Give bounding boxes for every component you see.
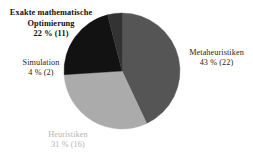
slice-label-heuristiken-value: 31 % (16) — [28, 140, 108, 150]
slice-label-exakte-mathematische-optimierung: Exakte mathematische Optimierung 22 % (1… — [5, 8, 97, 40]
pie-chart-figure: Exakte mathematische Optimierung 22 % (1… — [0, 0, 253, 156]
slice-label-metaheuristiken-value: 43 % (22) — [180, 58, 253, 68]
slice-label-heuristiken-name: Heuristiken — [28, 130, 108, 140]
slice-label-metaheuristiken: Metaheuristiken 43 % (22) — [180, 48, 253, 67]
slice-label-heuristiken: Heuristiken 31 % (16) — [28, 130, 108, 149]
slice-label-exakte-value: 22 % (11) — [5, 29, 97, 40]
slice-label-simulation-name: Simulation — [4, 58, 78, 68]
slice-label-simulation: Simulation 4 % (2) — [4, 58, 78, 77]
slice-label-simulation-value: 4 % (2) — [4, 68, 78, 78]
slice-label-metaheuristiken-name: Metaheuristiken — [180, 48, 253, 58]
slice-label-exakte-name: Exakte mathematische Optimierung — [5, 8, 97, 29]
